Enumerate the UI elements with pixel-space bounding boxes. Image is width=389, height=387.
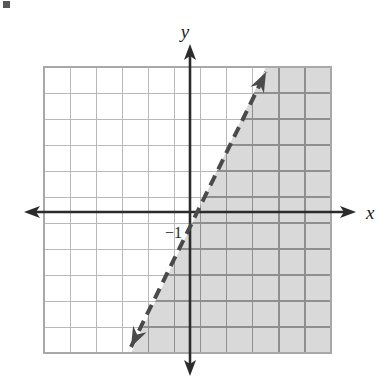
y-axis-label: y [179, 21, 190, 42]
y-intercept-label: −1 [165, 224, 182, 241]
coordinate-plane-graph: y x −1 [0, 0, 389, 387]
x-axis-label: x [365, 202, 375, 223]
scan-artifact [3, 1, 10, 8]
figure-root: y x −1 [0, 0, 389, 387]
